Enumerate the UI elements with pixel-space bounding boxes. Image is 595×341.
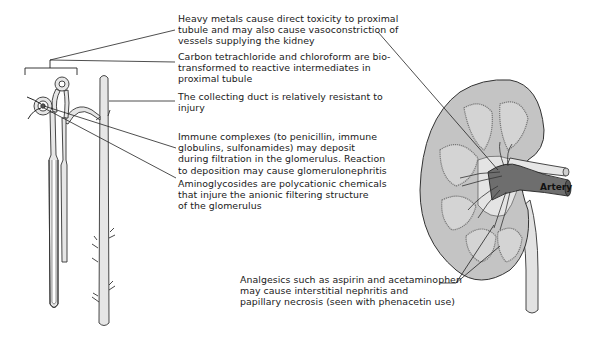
label-heavy-metals: Heavy metals cause direct toxicity to pr… <box>178 13 398 47</box>
label-aminoglycosides: Aminoglycosides are polycationic chemica… <box>178 178 387 212</box>
label-artery: Artery <box>540 182 572 192</box>
label-collecting-duct: The collecting duct is relatively resist… <box>178 91 383 113</box>
label-analgesics: Analgesics such as aspirin and acetamino… <box>240 274 462 308</box>
nephron-illustration <box>25 60 115 326</box>
label-immune-complexes: Immune complexes (to penicillin, immune … <box>178 131 387 176</box>
label-carbon-tetrachloride: Carbon tetrachloride and chloroform are … <box>178 51 391 85</box>
